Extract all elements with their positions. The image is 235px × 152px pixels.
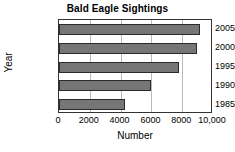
y-tick-1995: 1995	[181, 61, 235, 71]
bar-1995	[59, 62, 179, 73]
x-tick-6000: 6000	[140, 115, 160, 125]
bar-2005	[59, 24, 200, 35]
y-tick-2000: 2000	[181, 42, 235, 52]
y-tick-1985: 1985	[181, 99, 235, 109]
bar-chart: Bald Eagle Sightings Year 19851990199520…	[0, 0, 235, 152]
x-tick-0: 0	[55, 115, 60, 125]
y-tick-1990: 1990	[181, 80, 235, 90]
x-tick-2000: 2000	[79, 115, 99, 125]
x-tick-4000: 4000	[110, 115, 130, 125]
x-tick-10000: 10,000	[198, 115, 226, 125]
y-tick-2005: 2005	[181, 23, 235, 33]
x-tick-8000: 8000	[171, 115, 191, 125]
bar-2000	[59, 43, 197, 54]
x-axis-title: Number	[58, 130, 212, 141]
y-axis-title: Year	[3, 41, 14, 85]
bar-1990	[59, 80, 151, 91]
bar-1985	[59, 99, 125, 110]
chart-title: Bald Eagle Sightings	[0, 3, 235, 14]
